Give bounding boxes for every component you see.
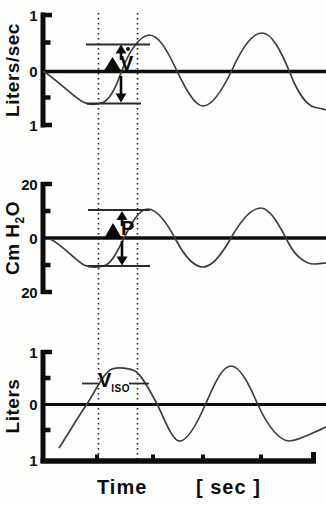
- flow-overdot-icon: [126, 47, 130, 51]
- x-axis-unit: [ sec ]: [196, 476, 261, 499]
- flow-ytick-zero: 0: [12, 64, 37, 79]
- pressure-down-arrowhead-icon: [117, 257, 128, 266]
- volume-ytick-bottom: 1: [12, 453, 37, 468]
- volume-ytick-top: 1: [12, 345, 37, 360]
- pressure-delta-label: P: [121, 218, 134, 238]
- volume-panel-axes: [41, 350, 326, 463]
- flow-panel-axes: [41, 13, 326, 128]
- pressure-ytick-zero: 0: [12, 231, 37, 246]
- pressure-ylabel-sub: 2: [13, 216, 27, 223]
- figure-root: Liters/sec Cm H2O Liters 1 0 1 20 0 20 1…: [0, 0, 326, 506]
- viso-subscript: ISO: [111, 383, 130, 394]
- flow-ytick-bottom: 1: [12, 118, 37, 133]
- pressure-ytick-top: 20: [12, 177, 37, 192]
- flow-delta-label: V: [120, 53, 133, 73]
- viso-label: VISO: [98, 370, 130, 399]
- volume-ytick-zero: 0: [12, 397, 37, 412]
- pressure-ylabel-post: O: [2, 201, 23, 216]
- flow-annotation-geometry: [86, 45, 150, 104]
- figure-canvas: [0, 0, 326, 506]
- viso-letter: V: [98, 369, 111, 391]
- pressure-ytick-bottom: 20: [12, 285, 37, 300]
- flow-delta-icon: [104, 57, 122, 72]
- pressure-panel-axes: [41, 182, 326, 294]
- flow-down-arrowhead-icon: [116, 94, 127, 103]
- flow-ytick-top: 1: [12, 8, 37, 23]
- pressure-delta-icon: [104, 223, 122, 239]
- x-axis-label: Time: [97, 476, 147, 499]
